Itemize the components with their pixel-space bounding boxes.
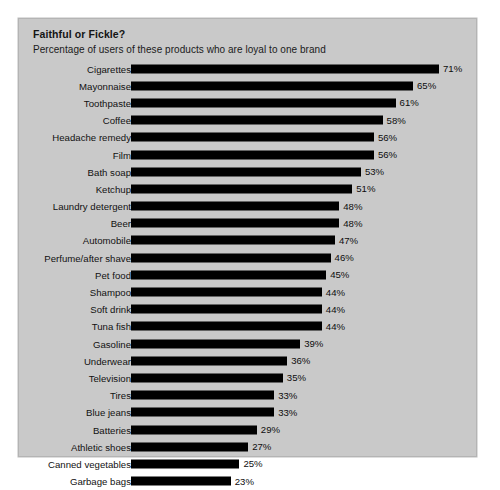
bar-track: 25% xyxy=(131,459,239,468)
bar-value-label: 44% xyxy=(326,287,345,298)
bar-category-label: Shampoo xyxy=(90,287,131,298)
bar-category-label: Bath soap xyxy=(88,166,131,177)
bar-row: Laundry detergent48% xyxy=(19,198,476,215)
bar-category-label: Athletic shoes xyxy=(71,441,131,452)
bar-category-label: Canned vegetables xyxy=(48,458,131,469)
bar-track: 29% xyxy=(131,425,257,434)
chart-title: Faithful or Fickle? xyxy=(33,28,125,40)
bar-fill xyxy=(131,459,239,468)
bar-fill xyxy=(131,442,248,451)
bar-category-label: Automobile xyxy=(83,235,131,246)
bar-category-label: Soft drink xyxy=(90,304,131,315)
bar-category-label: Mayonnaise xyxy=(79,80,131,91)
bar-category-label: Headache remedy xyxy=(52,132,131,143)
bar-fill xyxy=(131,288,322,297)
bar-fill xyxy=(131,339,300,348)
bar-row: Mayonnaise65% xyxy=(19,77,476,94)
bar-category-label: Underwear xyxy=(84,355,131,366)
bar-row: Automobile47% xyxy=(19,232,476,249)
bar-value-label: 35% xyxy=(287,372,306,383)
bar-track: 47% xyxy=(131,236,335,245)
bar-category-label: Blue jeans xyxy=(86,407,131,418)
bar-value-label: 56% xyxy=(378,149,397,160)
bar-row: Batteries29% xyxy=(19,421,476,438)
bar-fill xyxy=(131,270,326,279)
bar-track: 23% xyxy=(131,477,231,486)
bar-value-label: 51% xyxy=(356,183,375,194)
bar-track: 56% xyxy=(131,133,374,142)
bar-fill xyxy=(131,425,257,434)
bar-category-label: Tires xyxy=(110,390,131,401)
bar-row: Perfume/after shave46% xyxy=(19,249,476,266)
bar-track: 36% xyxy=(131,356,287,365)
bar-row: Tuna fish44% xyxy=(19,318,476,335)
bar-value-label: 56% xyxy=(378,132,397,143)
bar-fill xyxy=(131,116,383,125)
bar-row: Film56% xyxy=(19,146,476,163)
bar-track: 27% xyxy=(131,442,248,451)
bar-fill xyxy=(131,219,339,228)
bar-category-label: Cigarettes xyxy=(87,63,131,74)
bar-track: 33% xyxy=(131,391,274,400)
bar-track: 65% xyxy=(131,81,413,90)
bar-value-label: 71% xyxy=(443,63,462,74)
bar-row: Pet food45% xyxy=(19,266,476,283)
chart-panel: Faithful or Fickle? Percentage of users … xyxy=(18,18,477,457)
bar-category-label: Pet food xyxy=(95,269,131,280)
bar-category-label: Tuna fish xyxy=(92,321,131,332)
bar-fill xyxy=(131,202,339,211)
bar-row: Coffee58% xyxy=(19,112,476,129)
bar-category-label: Ketchup xyxy=(96,183,131,194)
bar-value-label: 45% xyxy=(330,269,349,280)
bar-value-label: 48% xyxy=(343,201,362,212)
bar-track: 33% xyxy=(131,408,274,417)
bar-value-label: 36% xyxy=(291,355,310,366)
bar-fill xyxy=(131,356,287,365)
bar-row: Blue jeans33% xyxy=(19,404,476,421)
bar-fill xyxy=(131,64,439,73)
bar-value-label: 61% xyxy=(400,97,419,108)
bar-value-label: 44% xyxy=(326,321,345,332)
bar-fill xyxy=(131,305,322,314)
bar-track: 44% xyxy=(131,305,322,314)
bar-fill xyxy=(131,184,352,193)
bar-value-label: 29% xyxy=(261,424,280,435)
bar-track: 58% xyxy=(131,116,383,125)
bar-track: 61% xyxy=(131,98,396,107)
bar-fill xyxy=(131,322,322,331)
bar-track: 44% xyxy=(131,322,322,331)
bar-value-label: 44% xyxy=(326,304,345,315)
bar-track: 35% xyxy=(131,373,283,382)
bar-fill xyxy=(131,81,413,90)
bar-row: Ketchup51% xyxy=(19,180,476,197)
bar-category-label: Beer xyxy=(111,218,131,229)
bar-track: 71% xyxy=(131,64,439,73)
bar-row: Beer48% xyxy=(19,215,476,232)
bar-track: 53% xyxy=(131,167,361,176)
bar-fill xyxy=(131,150,374,159)
bar-value-label: 65% xyxy=(417,80,436,91)
bar-track: 48% xyxy=(131,219,339,228)
bar-value-label: 58% xyxy=(387,115,406,126)
bar-category-label: Gasoline xyxy=(93,338,131,349)
bar-track: 45% xyxy=(131,270,326,279)
chart-subtitle: Percentage of users of these products wh… xyxy=(33,44,326,55)
bar-value-label: 39% xyxy=(304,338,323,349)
bar-row: Canned vegetables25% xyxy=(19,455,476,472)
bar-row: Tires33% xyxy=(19,387,476,404)
bar-value-label: 53% xyxy=(365,166,384,177)
bar-category-label: Toothpaste xyxy=(84,97,131,108)
bar-row: Headache remedy56% xyxy=(19,129,476,146)
bar-row: Gasoline39% xyxy=(19,335,476,352)
bar-row: Bath soap53% xyxy=(19,163,476,180)
bar-track: 39% xyxy=(131,339,300,348)
bar-fill xyxy=(131,253,331,262)
bar-row: Television35% xyxy=(19,369,476,386)
bar-fill xyxy=(131,391,274,400)
bar-track: 46% xyxy=(131,253,331,262)
bar-value-label: 23% xyxy=(235,476,254,487)
bar-fill xyxy=(131,167,361,176)
bar-row: Soft drink44% xyxy=(19,301,476,318)
bar-row: Athletic shoes27% xyxy=(19,438,476,455)
bar-fill xyxy=(131,477,231,486)
